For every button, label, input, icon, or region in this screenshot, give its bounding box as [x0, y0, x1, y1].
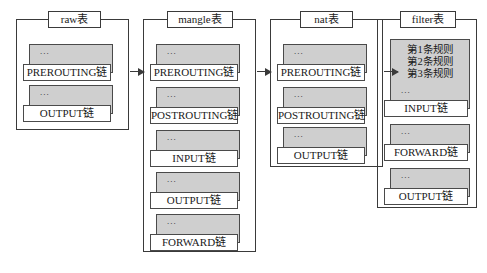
chain-ellipsis: ...	[40, 47, 50, 56]
chain-label: FORWARD链	[150, 234, 238, 251]
chain-ellipsis: ...	[294, 130, 304, 139]
chain-label: FORWARD链	[384, 144, 468, 161]
chain-label: POSTROUTING链	[277, 107, 365, 124]
chain-label: INPUT链	[384, 100, 468, 117]
chain-filter-forward: ... FORWARD链	[384, 124, 476, 161]
chain-ellipsis: ...	[40, 88, 50, 97]
table-title-filter: filter表	[400, 11, 456, 28]
chain-rule-item: 第3条规则	[391, 68, 469, 80]
table-title-mangle: mangle表	[167, 11, 233, 28]
chain-mangle-forward: ... FORWARD链	[150, 214, 246, 251]
chain-label: PREROUTING链	[23, 64, 111, 81]
connector-mangle-to-nat	[257, 71, 271, 72]
chain-label: POSTROUTING链	[150, 107, 238, 124]
chain-filter-output: ... OUTPUT链	[384, 168, 476, 205]
connector-nat-to-filter	[384, 71, 398, 72]
chain-label: PREROUTING链	[150, 64, 238, 81]
table-title-raw: raw表	[48, 11, 101, 28]
chain-ellipsis: ...	[167, 133, 177, 142]
chain-ellipsis: ...	[167, 90, 177, 99]
chain-rule-list: 第1条规则 第2条规则 第3条规则	[391, 44, 469, 80]
chain-label: INPUT链	[150, 150, 238, 167]
chain-nat-prerouting: ... PREROUTING链	[277, 44, 373, 81]
chain-rule-item: 第1条规则	[391, 44, 469, 56]
chain-label: OUTPUT链	[23, 105, 111, 122]
chain-ellipsis: ...	[167, 175, 177, 184]
chain-ellipsis: ...	[167, 47, 177, 56]
chain-mangle-postrouting: ... POSTROUTING链	[150, 87, 246, 124]
chain-ellipsis: ...	[167, 217, 177, 226]
chain-raw-output: ... OUTPUT链	[23, 85, 119, 122]
chain-nat-output: ... OUTPUT链	[277, 127, 373, 164]
chain-label: OUTPUT链	[277, 147, 365, 164]
table-title-nat: nat表	[300, 11, 353, 28]
chain-mangle-output: ... OUTPUT链	[150, 172, 246, 209]
chain-mangle-prerouting: ... PREROUTING链	[150, 44, 246, 81]
chain-ellipsis: ...	[294, 90, 304, 99]
chain-nat-postrouting: ... POSTROUTING链	[277, 87, 373, 124]
chain-ellipsis: ...	[294, 47, 304, 56]
chain-ellipsis: ...	[401, 86, 411, 95]
chain-filter-input: 第1条规则 第2条规则 第3条规则 ... INPUT链	[384, 39, 476, 117]
chain-mangle-input: ... INPUT链	[150, 130, 246, 167]
chain-body: 第1条规则 第2条规则 第3条规则 ...	[390, 39, 470, 109]
connector-raw-to-mangle	[130, 71, 144, 72]
chain-ellipsis: ...	[401, 171, 411, 180]
chain-label: OUTPUT链	[150, 192, 238, 209]
chain-label: PREROUTING链	[277, 64, 365, 81]
chain-rule-item: 第2条规则	[391, 56, 469, 68]
chain-label: OUTPUT链	[384, 188, 468, 205]
chain-ellipsis: ...	[401, 127, 411, 136]
diagram-canvas: raw表 ... PREROUTING链 ... OUTPUT链 mangle表…	[0, 0, 487, 273]
chain-raw-prerouting: ... PREROUTING链	[23, 44, 119, 81]
